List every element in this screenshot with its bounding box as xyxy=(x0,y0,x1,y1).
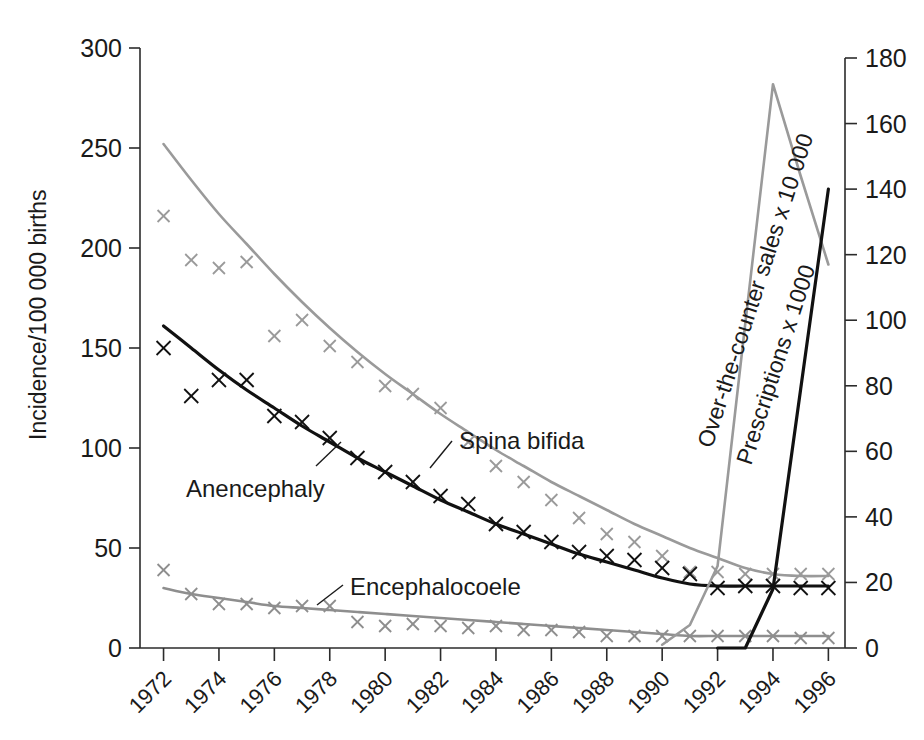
series-label-spina-bifida: Spina bifida xyxy=(459,427,585,454)
right-tick-label: 20 xyxy=(865,568,893,596)
data-point-marker xyxy=(655,561,669,575)
data-point-marker xyxy=(821,581,835,595)
data-point-marker xyxy=(711,581,725,595)
left-tick-label: 300 xyxy=(80,34,122,62)
data-point-marker xyxy=(296,314,308,326)
data-point-marker xyxy=(461,497,475,511)
x-tick-label: 1994 xyxy=(733,666,785,718)
data-point-marker xyxy=(268,330,280,342)
x-tick-label: 1992 xyxy=(678,666,730,718)
right-tick-label: 0 xyxy=(865,634,879,662)
data-point-marker xyxy=(351,356,363,368)
data-point-marker xyxy=(683,567,697,581)
right-tick-label: 100 xyxy=(865,306,907,334)
leader-line-encephalocoele xyxy=(317,585,343,605)
right-tick-label: 60 xyxy=(865,437,893,465)
data-point-marker xyxy=(518,624,530,636)
left-tick-label: 250 xyxy=(80,134,122,162)
data-point-marker xyxy=(350,451,364,465)
left-tick-label: 100 xyxy=(80,434,122,462)
right-tick-label: 160 xyxy=(865,110,907,138)
x-tick-label: 1988 xyxy=(567,666,619,718)
data-point-marker xyxy=(158,564,170,576)
right-tick-label: 180 xyxy=(865,44,907,72)
x-tick-label: 1974 xyxy=(179,666,231,718)
data-point-marker xyxy=(628,536,640,548)
data-point-marker xyxy=(627,553,641,567)
data-point-marker xyxy=(213,598,225,610)
series-label-encephalocoele: Encephalocoele xyxy=(350,573,521,600)
data-point-marker xyxy=(601,630,613,642)
data-point-marker xyxy=(184,389,198,403)
data-point-marker xyxy=(601,528,613,540)
data-point-marker xyxy=(822,632,834,644)
x-axis-ticks: 1972197419761978198019821984198619881990… xyxy=(124,648,841,718)
neural-tube-defects-chart: 050100150200250300 020406080100120140160… xyxy=(0,0,924,740)
left-tick-label: 50 xyxy=(94,534,122,562)
right-tick-label: 80 xyxy=(865,372,893,400)
data-point-marker xyxy=(794,581,808,595)
data-point-marker xyxy=(407,618,419,630)
left-tick-label: 200 xyxy=(80,234,122,262)
leader-line-anencephaly xyxy=(316,442,341,466)
data-point-marker xyxy=(241,256,253,268)
data-point-marker xyxy=(241,598,253,610)
data-point-marker xyxy=(324,340,336,352)
data-point-marker xyxy=(739,568,751,580)
data-point-marker xyxy=(435,402,447,414)
data-point-marker xyxy=(573,512,585,524)
x-tick-label: 1984 xyxy=(456,666,508,718)
data-point-marker xyxy=(489,517,503,531)
x-tick-label: 1990 xyxy=(622,666,674,718)
data-point-marker xyxy=(267,409,281,423)
x-tick-label: 1980 xyxy=(345,666,397,718)
right-tick-label: 140 xyxy=(865,175,907,203)
x-tick-label: 1972 xyxy=(124,666,176,718)
x-tick-label: 1978 xyxy=(290,666,342,718)
data-point-marker xyxy=(240,373,254,387)
data-point-marker xyxy=(407,388,419,400)
data-point-marker xyxy=(490,460,502,472)
data-point-marker xyxy=(212,373,226,387)
left-tick-label: 150 xyxy=(80,334,122,362)
x-tick-label: 1986 xyxy=(512,666,564,718)
data-point-marker xyxy=(378,465,392,479)
data-point-marker xyxy=(213,262,225,274)
data-point-marker xyxy=(462,622,474,634)
y-axis-title: Incidence/100 000 births xyxy=(25,189,51,440)
data-point-marker xyxy=(296,600,308,612)
x-tick-label: 1996 xyxy=(789,666,841,718)
series-label-anencephaly: Anencephaly xyxy=(186,475,325,502)
right-tick-label: 40 xyxy=(865,503,893,531)
chart-container: 050100150200250300 020406080100120140160… xyxy=(0,0,924,740)
data-point-marker xyxy=(656,550,668,562)
data-point-marker xyxy=(379,620,391,632)
data-point-marker xyxy=(158,210,170,222)
left-tick-label: 0 xyxy=(108,634,122,662)
data-point-marker xyxy=(185,254,197,266)
right-axis-ticks: 020406080100120140160180 xyxy=(845,44,907,662)
x-tick-label: 1976 xyxy=(235,666,287,718)
data-point-marker xyxy=(518,476,530,488)
data-point-marker xyxy=(157,341,171,355)
data-point-marker xyxy=(684,566,696,578)
data-point-marker xyxy=(435,620,447,632)
data-point-marker xyxy=(795,632,807,644)
x-tick-label: 1982 xyxy=(401,666,453,718)
data-point-marker xyxy=(268,602,280,614)
data-point-marker xyxy=(545,494,557,506)
left-axis-ticks: 050100150200250300 xyxy=(80,34,140,662)
data-point-marker xyxy=(795,568,807,580)
data-point-marker xyxy=(822,568,834,580)
leader-line-spina-bifida xyxy=(430,441,452,468)
data-point-marker xyxy=(351,616,363,628)
data-point-marker xyxy=(379,380,391,392)
right-tick-label: 120 xyxy=(865,241,907,269)
